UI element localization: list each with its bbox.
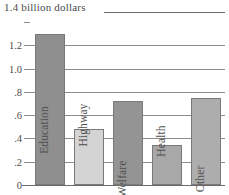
bar-chart: 1.4 billion dollars 1.21.0.8.6.4.20Educa… [0,0,229,195]
y-axis-tick [24,162,30,163]
y-axis-tick [24,22,30,23]
y-axis-label: 1.2 [9,40,22,51]
chart-title: 1.4 billion dollars [4,1,86,13]
x-axis-baseline [22,185,225,186]
y-axis-tick [24,185,30,186]
y-axis-tick [24,69,30,70]
y-axis-tick [24,45,30,46]
y-axis-label: .4 [14,133,22,144]
y-axis-label: 0 [17,180,22,191]
bar-other[interactable] [191,98,221,185]
y-axis-label: .8 [14,87,22,98]
y-axis-label: 1.0 [9,64,22,75]
bar-health[interactable] [152,145,182,185]
title-rule [104,12,225,13]
bar-highway[interactable] [74,129,104,185]
bar-education[interactable] [35,34,65,185]
y-axis-tick [24,138,30,139]
bar-welfare[interactable] [113,101,143,185]
y-axis-tick [24,92,30,93]
y-axis-label: .2 [14,157,22,168]
y-axis-tick [24,115,30,116]
plot-area: 1.21.0.8.6.4.20EducationHighwayWelfareHe… [30,22,225,185]
y-axis-label: .6 [14,110,22,121]
